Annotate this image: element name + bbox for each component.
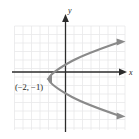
x-axis-arrow-icon: [119, 69, 127, 76]
vertex-point-label: (−2, −1): [15, 82, 43, 92]
y-axis-arrow-icon: [62, 14, 69, 22]
curve-upper-arrow-icon: [117, 39, 126, 46]
axes: [12, 14, 127, 132]
x-axis-label: x: [128, 68, 133, 77]
graph-figure: x y (−2, −1): [0, 0, 139, 139]
y-axis-label: y: [67, 6, 72, 15]
coordinate-plane-svg: x y (−2, −1): [0, 0, 139, 139]
parabola-curve: [47, 39, 126, 120]
curve-lower-arrow-icon: [117, 113, 126, 120]
parabola-path: [49, 42, 121, 116]
grid-lines: [15, 26, 126, 130]
